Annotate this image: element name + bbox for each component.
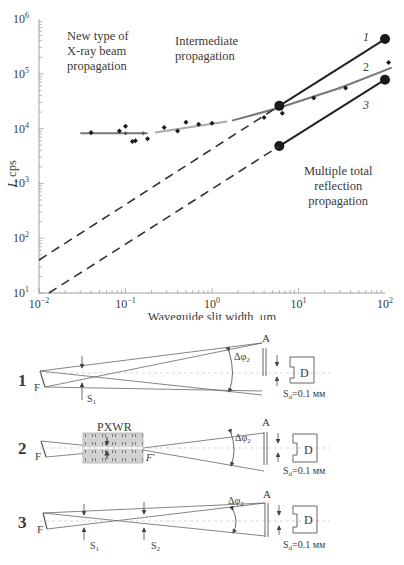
annotation-new-type: New type of X-ray beam propagation bbox=[67, 29, 129, 74]
series-1-extrapolation bbox=[39, 106, 279, 260]
data-point bbox=[162, 125, 167, 130]
svg-text:D: D bbox=[304, 513, 313, 527]
svg-text:Δφ2: Δφ2 bbox=[235, 432, 251, 445]
svg-text:2: 2 bbox=[18, 439, 27, 458]
data-point bbox=[280, 111, 285, 116]
x-tick-label: 100 bbox=[204, 296, 220, 311]
marker-tick bbox=[124, 131, 128, 135]
svg-text:F: F bbox=[34, 381, 40, 393]
curve-label: 2 bbox=[363, 60, 369, 74]
data-point bbox=[262, 115, 267, 120]
curve-label: 1 bbox=[363, 30, 369, 44]
diagram-row-1: 1 F S1 Δφ2 A D Sd=0.1 мм bbox=[18, 332, 330, 406]
annotation-intermediate: Intermediate propagation bbox=[175, 34, 238, 64]
series-2 bbox=[232, 68, 392, 121]
svg-text:3: 3 bbox=[18, 513, 27, 532]
data-point bbox=[386, 60, 391, 65]
svg-text:Δφ2: Δφ2 bbox=[228, 495, 244, 508]
svg-text:F: F bbox=[37, 523, 43, 535]
series-3-extrapolation bbox=[49, 146, 279, 293]
svg-text:A: A bbox=[262, 332, 270, 344]
data-point bbox=[123, 124, 128, 129]
x-tick-label: 102 bbox=[377, 296, 393, 311]
endpoint-marker bbox=[380, 75, 390, 85]
svg-text:F': F' bbox=[145, 452, 155, 463]
svg-text:Sd=0.1 мм: Sd=0.1 мм bbox=[283, 388, 326, 401]
svg-text:S1: S1 bbox=[87, 393, 97, 406]
svg-text:A: A bbox=[263, 488, 271, 500]
marker-tick bbox=[141, 131, 145, 135]
svg-text:F: F bbox=[35, 450, 41, 462]
endpoint-marker bbox=[380, 34, 390, 44]
data-point bbox=[145, 136, 150, 141]
data-point bbox=[183, 120, 188, 125]
svg-text:S2: S2 bbox=[151, 540, 161, 553]
y-tick-label: 104 bbox=[13, 121, 29, 136]
y-tick-label: 105 bbox=[13, 66, 29, 81]
x-tick-label: 10−1 bbox=[115, 296, 136, 311]
endpoint-marker bbox=[274, 141, 284, 151]
x-tick-label: 101 bbox=[291, 296, 307, 311]
x-tick-label: 10−2 bbox=[29, 296, 50, 311]
series-1 bbox=[279, 39, 385, 106]
y-axis-label: I, cps bbox=[5, 160, 19, 188]
svg-text:1: 1 bbox=[18, 371, 27, 390]
annotation-multiple-reflection: Multiple total reflection propagation bbox=[304, 164, 372, 209]
endpoint-marker bbox=[274, 101, 284, 111]
svg-text:D: D bbox=[304, 443, 313, 457]
svg-text:PXWR: PXWR bbox=[97, 420, 132, 434]
y-tick-label: 102 bbox=[13, 230, 29, 245]
diagram-row-3: 3 F S1 S2 Δφ2 A D Sd=0.1 мм bbox=[18, 488, 330, 553]
x-axis-label: Waveguide slit width, μm bbox=[148, 310, 277, 320]
y-tick-label: 106 bbox=[13, 11, 29, 26]
curve-label: 3 bbox=[362, 98, 369, 112]
svg-text:Δφ2: Δφ2 bbox=[234, 351, 250, 364]
svg-text:D: D bbox=[300, 366, 309, 380]
svg-text:Sd=0.1 мм: Sd=0.1 мм bbox=[283, 465, 326, 478]
svg-text:Sd=0.1 мм: Sd=0.1 мм bbox=[283, 539, 326, 552]
svg-text:A: A bbox=[262, 416, 270, 428]
svg-text:S1: S1 bbox=[90, 540, 100, 553]
diagram-row-2: 2 F PXWR F' Δφ2 A D Sd=0.1 мм bbox=[18, 416, 330, 478]
y-tick-label: 101 bbox=[13, 285, 29, 300]
data-point bbox=[210, 121, 215, 126]
